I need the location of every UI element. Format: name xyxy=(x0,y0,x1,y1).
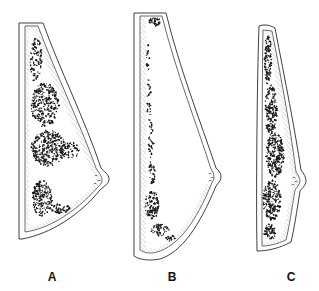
panel-label-a: A xyxy=(42,270,62,284)
panel-c-dense-breast xyxy=(257,25,306,251)
panel-a-fatty-predominant-breast xyxy=(19,23,109,239)
panel-b-fatty-breast xyxy=(134,13,221,260)
panel-label-c: C xyxy=(281,270,301,284)
panel-label-b: B xyxy=(162,270,182,284)
breast-profile-figure xyxy=(0,0,319,291)
